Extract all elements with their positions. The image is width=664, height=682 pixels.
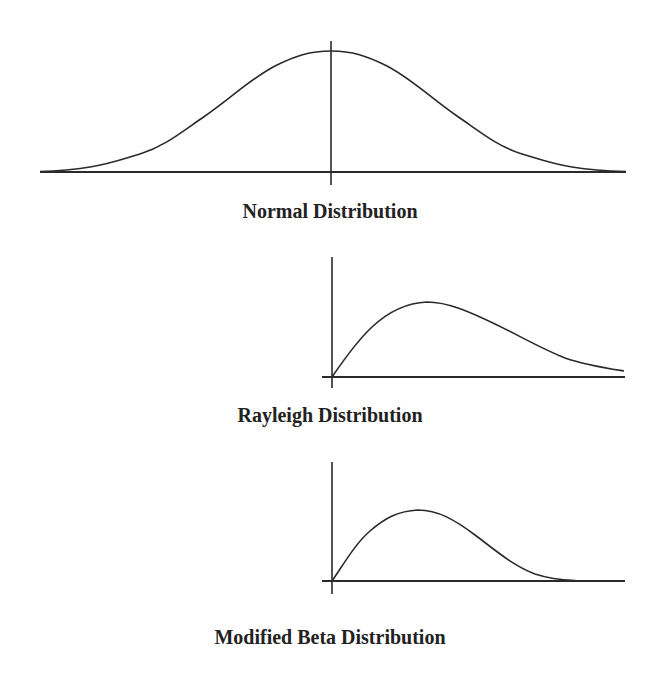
- beta-distribution-title: Modified Beta Distribution: [214, 626, 445, 649]
- beta-curve: [332, 510, 575, 581]
- distributions-figure: [0, 0, 664, 682]
- beta-distribution-plot: [322, 462, 625, 594]
- normal-distribution-plot: [40, 41, 626, 185]
- normal-curve: [40, 51, 626, 172]
- normal-distribution-title: Normal Distribution: [243, 200, 418, 223]
- rayleigh-distribution-plot: [322, 257, 625, 388]
- rayleigh-distribution-title: Rayleigh Distribution: [237, 404, 422, 427]
- rayleigh-curve: [332, 302, 624, 377]
